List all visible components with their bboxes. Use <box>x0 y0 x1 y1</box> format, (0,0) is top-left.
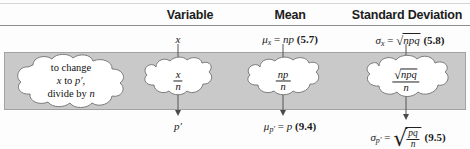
cloud-conversion-note-text: to change x to p′, divide by n <box>47 62 94 100</box>
formula-flow-figure: Variable Mean Standard Deviation x μx = … <box>0 0 470 149</box>
top-rule <box>0 3 470 4</box>
arrow-variable-head <box>175 110 181 116</box>
arrow-mean-head <box>280 110 286 116</box>
top-variable-symbol: x <box>176 33 181 45</box>
sqrt-npq-icon: √npq <box>394 68 417 81</box>
top-mean-formula: μx = np (5.7) <box>262 33 318 47</box>
bottom-mean-formula: μp′ = p (9.4) <box>264 120 316 134</box>
arrow-std-head <box>403 114 409 120</box>
column-header-standard-deviation: Standard Deviation <box>352 8 462 22</box>
column-header-mean: Mean <box>274 8 305 22</box>
cloud-std-fraction-text: √npq n <box>392 68 419 93</box>
cloud-mean-fraction-text: np n <box>276 69 291 92</box>
cloud-variable-fraction-text: x n <box>173 69 182 92</box>
cloud-conversion-note: to change x to p′, divide by n <box>7 53 135 109</box>
header-underline-rule <box>0 25 470 26</box>
top-std-formula: σx = √npq (5.8) <box>376 33 445 48</box>
sqrt-pq-over-n-icon: √ pq n <box>393 127 422 149</box>
cloud-std-fraction: √npq n <box>360 54 452 108</box>
cloud-variable-fraction: x n <box>141 56 215 106</box>
column-header-variable: Variable <box>167 8 213 22</box>
cloud-mean-fraction: np n <box>244 56 322 106</box>
bottom-variable-symbol: p′ <box>174 120 182 132</box>
sqrt-npq-icon: √npq <box>396 33 420 48</box>
bottom-std-formula: σp′ = √ pq n (9.5) <box>370 127 445 149</box>
